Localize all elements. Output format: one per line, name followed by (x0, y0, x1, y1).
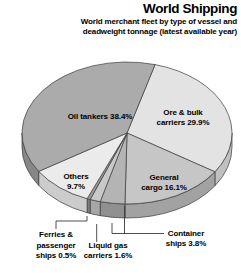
slice-label-oil-tankers: Oil tankers 38.4% (40, 112, 160, 122)
pie-slice-side-liquid-gas-carriers (90, 199, 100, 215)
world-shipping-chart: World Shipping World merchant fleet by t… (0, 0, 241, 280)
slice-label-container-ships: Container ships 3.8% (156, 229, 216, 248)
chart-header: World Shipping World merchant fleet by t… (81, 1, 237, 36)
slice-label-general-cargo: General cargo 16.1% (124, 173, 204, 192)
slice-label-liquid-gas-carriers: Liquid gas carriers 1.6% (78, 241, 138, 260)
chart-subtitle-line2: deadweight tonnage (latest available yea… (81, 27, 237, 36)
slice-label-others: Others 9.7% (46, 172, 106, 191)
chart-subtitle-line1: World merchant fleet by type of vessel a… (81, 17, 237, 26)
slice-label-ore-bulk-carriers: Ore & bulk carriers 29.9% (143, 108, 223, 127)
leader-line-ferries-passenger-ships (56, 216, 87, 229)
pie-slice-side-ferries-passenger-ships (87, 199, 90, 214)
chart-title: World Shipping (81, 1, 237, 16)
